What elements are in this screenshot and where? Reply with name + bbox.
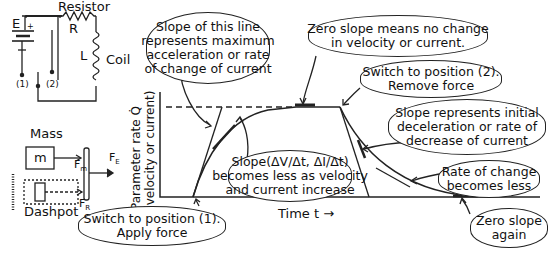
callout-switch-2: Switch to position (2). Remove force	[360, 60, 502, 98]
battery-plus: +	[27, 20, 34, 34]
mass-symbol: m	[34, 151, 47, 165]
callout-deceleration: Slope represents initial deceleration or…	[388, 99, 546, 155]
y-axis-label-2: (velocity or current)	[144, 91, 157, 210]
callout-rate-less: Rate of change becomes less	[438, 160, 540, 198]
force-mass-label: Fm	[74, 158, 87, 176]
r-symbol: R	[69, 22, 78, 36]
dashpot-label: Dashpot	[24, 205, 78, 219]
coil-label: Coil	[106, 53, 130, 67]
l-symbol: L	[80, 49, 87, 63]
switch-position-1: (1)	[16, 77, 29, 91]
callout-slope-less: Slope(ΔV/Δt, ΔI/Δt) becomes less as velo…	[228, 150, 352, 202]
switch-position-2: (2)	[46, 77, 59, 91]
battery-label: E	[12, 17, 20, 31]
resistor-label: Resistor	[58, 0, 110, 14]
callout-max-slope: Slope of this line represents maximum ac…	[146, 12, 270, 84]
callout-switch-1: Switch to position (1). Apply force	[78, 206, 226, 246]
callout-zero-again: Zero slope again	[470, 208, 548, 248]
callout-zero-slope: Zero slope means no change in velocity o…	[308, 15, 488, 57]
y-axis-label-1: Parameter rate Q̇	[130, 106, 143, 210]
x-axis-label: Time t →	[278, 207, 334, 221]
mass-label: Mass	[30, 127, 63, 141]
force-external-label: FE	[109, 151, 120, 169]
